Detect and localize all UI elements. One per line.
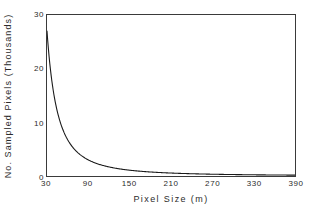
y-tick-label: 10 <box>22 118 44 127</box>
y-axis-title-wrap: No. Sampled Pixels (Thousands) <box>0 14 16 177</box>
y-tick-label: 0 <box>22 173 44 182</box>
y-axis-title: No. Sampled Pixels (Thousands) <box>3 13 13 178</box>
y-tick-label: 30 <box>22 10 44 19</box>
x-tick-label: 270 <box>205 179 220 188</box>
y-tick-label: 20 <box>22 64 44 73</box>
chart-figure: 30 90 150 210 270 330 390 0 10 20 30 Pix… <box>0 0 311 215</box>
x-tick-label: 150 <box>122 179 137 188</box>
x-tick-label: 90 <box>83 179 93 188</box>
x-axis-title: Pixel Size (m) <box>46 194 296 204</box>
x-tick-label: 390 <box>288 179 303 188</box>
x-tick-label: 210 <box>163 179 178 188</box>
x-tick-label: 330 <box>247 179 262 188</box>
plot-area <box>46 14 296 177</box>
curve-svg <box>47 15 295 176</box>
data-series-line <box>47 31 295 175</box>
